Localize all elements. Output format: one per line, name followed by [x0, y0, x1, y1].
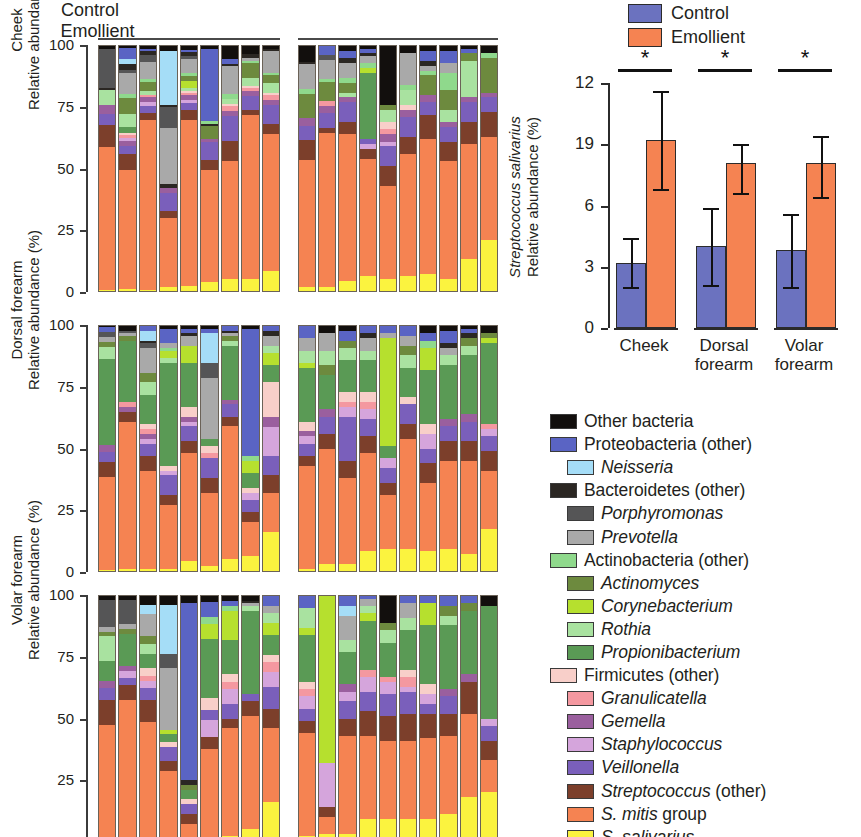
- salivarius-x-axis-segment: [614, 328, 678, 330]
- stack-segment: [140, 688, 156, 700]
- stack-segment: [440, 461, 456, 549]
- taxa-legend-swatch: [567, 807, 594, 822]
- stack-segment: [119, 146, 135, 154]
- stack-segment: [201, 282, 217, 291]
- stack-segment: [263, 271, 279, 291]
- stack-segment: [99, 114, 115, 125]
- stack-segment: [461, 346, 477, 356]
- stack-segment: [181, 363, 197, 407]
- stack-segment: [263, 802, 279, 837]
- stack-segment: [160, 747, 176, 762]
- stack-segment: [99, 661, 115, 681]
- stack-segment: [380, 596, 396, 623]
- taxa-legend-label: Staphylococcus: [601, 734, 722, 755]
- taxa-legend-swatch: [567, 460, 594, 475]
- stack-segment: [99, 359, 115, 445]
- stack-segment: [440, 736, 456, 814]
- stack-segment: [400, 439, 416, 549]
- stack-segment: [339, 596, 355, 606]
- taxa-legend-item: Bacteroidetes (other): [550, 479, 766, 502]
- stack-segment: [263, 606, 279, 613]
- stack-segment: [99, 452, 115, 462]
- stack-segment: [181, 603, 197, 779]
- stack-segment: [201, 170, 217, 283]
- stack-segment: [461, 414, 477, 421]
- taxa-legend-item: Firmicutes (other): [550, 664, 766, 687]
- significance-asterisk: *: [778, 47, 832, 69]
- taxa-legend-label: Other bacteria: [584, 411, 694, 432]
- salivarius-y-axis-label: Streptococcus salivarius Relative abunda…: [506, 67, 542, 327]
- bars-volar-forearm-emollient: [298, 595, 498, 837]
- stack-segment: [319, 564, 335, 571]
- stack-segment: [222, 141, 238, 161]
- taxa-legend-swatch: [567, 784, 594, 799]
- stack-segment: [420, 341, 436, 348]
- stack-segment: [380, 146, 396, 166]
- taxa-legend-label: Veillonella: [601, 757, 679, 778]
- stack-segment: [400, 670, 416, 677]
- stack-segment: [299, 466, 315, 569]
- error-cap-upper: [813, 136, 829, 138]
- stack-segment: [420, 551, 436, 571]
- salivarius-y-tick-label: 0: [546, 318, 594, 338]
- taxa-legend-item: Staphylococcus: [550, 733, 766, 756]
- stack-segment: [319, 113, 335, 128]
- taxa-legend-label: Corynebacterium: [601, 596, 733, 617]
- stack-segment: [400, 110, 416, 117]
- taxa-legend-swatch: [567, 830, 594, 837]
- significance-asterisk: *: [618, 47, 672, 69]
- stack-segment: [242, 556, 258, 571]
- stacked-bar: [262, 45, 280, 292]
- stack-segment: [360, 692, 376, 712]
- y-axis-label-cheek: CheekRelative abundance (%): [8, 0, 42, 150]
- stacked-bar: [379, 325, 397, 572]
- stacked-bar: [200, 45, 218, 292]
- y-tick-mark: [80, 292, 86, 294]
- stack-segment: [140, 348, 156, 373]
- stack-segment: [140, 55, 156, 62]
- stack-segment: [299, 326, 315, 338]
- y-tick-mark: [80, 780, 86, 782]
- stack-segment: [339, 616, 355, 641]
- taxa-legend-label: Porphyromonas: [601, 503, 723, 524]
- stack-segment: [420, 102, 436, 114]
- stack-segment: [242, 522, 258, 556]
- stack-segment: [119, 341, 135, 402]
- stack-segment: [222, 640, 238, 674]
- stack-segment: [380, 326, 396, 333]
- stack-segment: [481, 436, 497, 451]
- stacked-bar: [359, 45, 377, 292]
- stack-segment: [339, 341, 355, 348]
- y-axis-cheek: [86, 45, 88, 292]
- stack-segment: [263, 635, 279, 655]
- error-cap-upper: [783, 214, 799, 216]
- stack-segment: [181, 441, 197, 453]
- stack-segment: [119, 678, 135, 685]
- stack-segment: [400, 819, 416, 837]
- stack-segment: [160, 605, 176, 654]
- stack-segment: [99, 147, 115, 289]
- stack-segment: [339, 281, 355, 291]
- stack-segment: [339, 736, 355, 834]
- stack-segment: [242, 78, 258, 85]
- stacked-bar: [298, 325, 316, 572]
- y-tick-mark: [80, 510, 86, 512]
- error-cap-lower: [653, 189, 669, 191]
- error-cap-lower: [733, 193, 749, 195]
- stack-segment: [160, 218, 176, 287]
- stacked-bar: [98, 325, 116, 572]
- stack-segment: [242, 694, 258, 701]
- error-bar: [711, 208, 713, 286]
- stack-segment: [160, 495, 176, 505]
- stacked-bar: [338, 45, 356, 292]
- stacked-bar: [118, 45, 136, 292]
- stack-segment: [263, 365, 279, 382]
- y-tick-label: 50: [6, 710, 74, 727]
- stack-segment: [160, 211, 176, 219]
- stacked-bar: [379, 45, 397, 292]
- stack-segment: [440, 441, 456, 461]
- stack-segment: [400, 137, 416, 154]
- stack-segment: [140, 456, 156, 471]
- stack-segment: [360, 159, 376, 277]
- stack-segment: [140, 82, 156, 92]
